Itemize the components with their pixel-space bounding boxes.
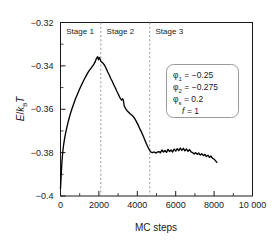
y-tick-label: −0.36: [31, 104, 54, 114]
y-axis-title: E/kBT: [15, 96, 28, 121]
y-tick-label: −0.34: [31, 61, 54, 71]
x-tick-label: 6000: [166, 200, 186, 210]
y-tick-label: −0.32: [31, 18, 54, 28]
x-axis-title: MC steps: [135, 222, 177, 233]
x-tick-label: 4000: [127, 200, 147, 210]
chart-root: −0.4−0.38−0.36−0.34−0.32 020004000600080…: [0, 0, 279, 240]
x-tick-label: 2000: [89, 200, 109, 210]
legend-row: φs= 0.2: [173, 94, 203, 106]
y-tick-label: −0.38: [31, 148, 54, 158]
x-tick-label: 10 000: [239, 200, 267, 210]
stage-label: Stage 3: [156, 27, 184, 36]
energy-vs-mcsteps-chart: −0.4−0.38−0.36−0.34−0.32 020004000600080…: [0, 0, 279, 240]
stage-label: Stage 1: [66, 27, 94, 36]
stage-label: Stage 2: [107, 27, 135, 36]
parameter-legend-box: φ1= −0.25φ2= −0.275φs= 0.2f= 1: [167, 65, 239, 118]
x-tick-label: 8000: [204, 200, 224, 210]
y-tick-label: −0.4: [36, 191, 54, 201]
x-tick-label: 0: [58, 200, 63, 210]
y-axis-title-t: T: [15, 96, 26, 103]
svg-text:E/kBT: E/kBT: [15, 96, 28, 121]
stage-labels: Stage 1Stage 2Stage 3: [66, 27, 183, 36]
